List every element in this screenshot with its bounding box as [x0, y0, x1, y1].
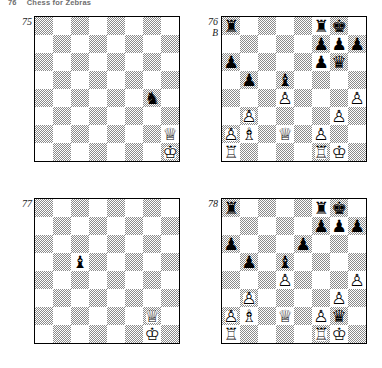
piece-wK-g1[interactable]: ♔	[143, 325, 161, 343]
square-g8[interactable]: ♚	[330, 17, 348, 35]
square-h8[interactable]	[348, 17, 366, 35]
square-e1[interactable]	[294, 143, 312, 161]
piece-bP-g7[interactable]: ♟	[330, 35, 348, 53]
square-h6[interactable]	[348, 53, 366, 71]
square-c3[interactable]	[258, 107, 276, 125]
square-h6[interactable]	[161, 53, 179, 71]
square-b4[interactable]	[240, 89, 258, 107]
square-d8[interactable]	[276, 199, 294, 217]
square-e6[interactable]	[294, 53, 312, 71]
piece-bK-g8[interactable]: ♚	[330, 17, 348, 35]
square-f4[interactable]	[125, 271, 143, 289]
chess-board-78[interactable]: ♜♜♚♟♟♟♟♟♟♝♙♙♙♙♙♗♕♙♛♖♖♔	[221, 198, 367, 344]
square-h1[interactable]	[161, 325, 179, 343]
square-d5[interactable]: ♝	[276, 71, 294, 89]
square-f1[interactable]	[125, 143, 143, 161]
piece-wK-g1[interactable]: ♔	[330, 143, 348, 161]
square-g1[interactable]: ♔	[143, 325, 161, 343]
square-h5[interactable]	[348, 253, 366, 271]
square-e1[interactable]	[294, 325, 312, 343]
square-f6[interactable]	[125, 53, 143, 71]
square-b2[interactable]	[53, 125, 71, 143]
piece-bB-d5[interactable]: ♝	[276, 71, 294, 89]
square-b7[interactable]	[53, 217, 71, 235]
square-b8[interactable]	[240, 199, 258, 217]
square-h8[interactable]	[161, 199, 179, 217]
square-h4[interactable]	[161, 89, 179, 107]
square-f2[interactable]	[125, 125, 143, 143]
square-e7[interactable]	[107, 217, 125, 235]
square-h1[interactable]	[348, 143, 366, 161]
square-e4[interactable]	[294, 271, 312, 289]
square-a7[interactable]	[35, 217, 53, 235]
square-b1[interactable]	[53, 325, 71, 343]
square-f7[interactable]	[125, 35, 143, 53]
square-b2[interactable]: ♗	[240, 125, 258, 143]
square-b5[interactable]	[53, 253, 71, 271]
square-a8[interactable]: ♜	[222, 199, 240, 217]
square-b8[interactable]	[53, 199, 71, 217]
piece-bP-f7[interactable]: ♟	[312, 35, 330, 53]
square-e6[interactable]	[107, 53, 125, 71]
square-c7[interactable]	[258, 35, 276, 53]
square-h8[interactable]	[161, 17, 179, 35]
square-f3[interactable]	[312, 107, 330, 125]
square-d2[interactable]: ♕	[276, 125, 294, 143]
square-b3[interactable]: ♙	[240, 289, 258, 307]
square-f7[interactable]	[125, 217, 143, 235]
square-g1[interactable]	[143, 143, 161, 161]
square-b4[interactable]	[240, 271, 258, 289]
square-d1[interactable]	[276, 325, 294, 343]
square-c8[interactable]	[258, 17, 276, 35]
piece-bQ-g6[interactable]: ♛	[330, 53, 348, 71]
square-d4[interactable]	[89, 271, 107, 289]
square-h6[interactable]	[348, 235, 366, 253]
square-f8[interactable]	[125, 199, 143, 217]
square-a3[interactable]	[35, 289, 53, 307]
piece-bQ-g2[interactable]: ♛	[330, 307, 348, 325]
square-e8[interactable]	[294, 17, 312, 35]
square-d8[interactable]	[276, 17, 294, 35]
square-d7[interactable]	[89, 217, 107, 235]
square-a7[interactable]	[222, 35, 240, 53]
piece-bP-b5[interactable]: ♟	[240, 253, 258, 271]
square-g2[interactable]	[143, 125, 161, 143]
square-a3[interactable]	[222, 107, 240, 125]
piece-bP-f6[interactable]: ♟	[312, 53, 330, 71]
square-a1[interactable]: ♖	[222, 325, 240, 343]
square-h2[interactable]	[161, 307, 179, 325]
square-b5[interactable]: ♟	[240, 71, 258, 89]
square-h6[interactable]	[161, 235, 179, 253]
piece-bB-c5[interactable]: ♝	[71, 253, 89, 271]
square-d5[interactable]	[89, 71, 107, 89]
piece-bP-a6[interactable]: ♟	[222, 53, 240, 71]
square-b1[interactable]	[240, 325, 258, 343]
square-c7[interactable]	[258, 217, 276, 235]
piece-wP-b3[interactable]: ♙	[240, 107, 258, 125]
square-h2[interactable]	[348, 307, 366, 325]
square-g7[interactable]	[143, 35, 161, 53]
square-a6[interactable]	[35, 53, 53, 71]
square-c6[interactable]	[258, 53, 276, 71]
square-g4[interactable]	[330, 89, 348, 107]
square-g3[interactable]: ♙	[330, 289, 348, 307]
square-f6[interactable]	[312, 235, 330, 253]
square-b4[interactable]	[53, 89, 71, 107]
square-e1[interactable]	[107, 325, 125, 343]
piece-bB-d5[interactable]: ♝	[276, 253, 294, 271]
square-e3[interactable]	[294, 107, 312, 125]
square-e2[interactable]	[107, 307, 125, 325]
square-d2[interactable]	[89, 307, 107, 325]
square-g5[interactable]	[330, 253, 348, 271]
square-e2[interactable]	[294, 125, 312, 143]
piece-wK-g1[interactable]: ♔	[330, 325, 348, 343]
square-d8[interactable]	[89, 17, 107, 35]
square-b7[interactable]	[240, 35, 258, 53]
piece-wB-b2[interactable]: ♗	[240, 307, 258, 325]
square-b5[interactable]	[53, 71, 71, 89]
square-a6[interactable]: ♟	[222, 235, 240, 253]
piece-bN-g4[interactable]: ♞	[143, 89, 161, 107]
square-d3[interactable]	[89, 289, 107, 307]
square-a5[interactable]	[35, 253, 53, 271]
square-b3[interactable]	[53, 107, 71, 125]
